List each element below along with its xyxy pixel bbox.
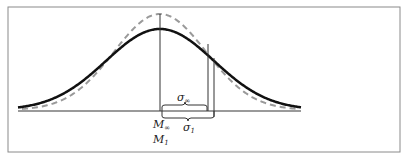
- figure-frame: [8, 7, 400, 152]
- distribution-diagram: σ∞ σ1 M∞ M1: [0, 0, 408, 160]
- distribution-figure: σ∞ σ1 M∞ M1: [0, 0, 408, 160]
